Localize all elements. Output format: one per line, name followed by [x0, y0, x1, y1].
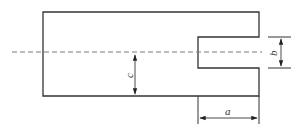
dimension-a-label: a — [225, 105, 231, 117]
dimension-c-label: c — [123, 73, 135, 78]
plate-diagram: c b a — [0, 0, 301, 132]
dimension-b-label: b — [267, 50, 279, 56]
plate-outline — [43, 12, 259, 96]
